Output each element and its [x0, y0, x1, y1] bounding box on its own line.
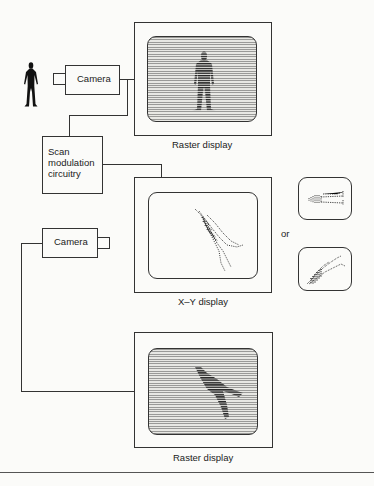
connector-to-scan	[69, 115, 128, 116]
connector-to-bottom-raster	[21, 391, 135, 392]
xy-display-label: X–Y display	[178, 296, 228, 307]
or-separator: or	[281, 228, 289, 239]
bottom-raster-label: Raster display	[173, 452, 233, 463]
connector-scan-to-xy	[102, 164, 162, 165]
connector-camera-down	[127, 79, 128, 116]
alt-screen-horizontal	[298, 177, 352, 220]
connector-camera2-down	[21, 243, 22, 391]
scan-label-line1: Scan	[48, 146, 70, 157]
scan-label-line3: circuitry	[48, 168, 81, 179]
bottom-rule	[0, 472, 374, 473]
connector-camera2-left	[21, 243, 42, 244]
tilted-figure-icon	[193, 207, 249, 273]
horizontal-figure-icon	[307, 190, 347, 210]
human-silhouette-icon	[22, 62, 40, 108]
camera-bottom-label: Camera	[54, 236, 88, 247]
tilted-raster-figure-icon	[193, 365, 249, 421]
alt-screen-diagonal	[298, 247, 352, 291]
scan-label-line2: modulation	[48, 157, 94, 168]
camera-bottom-lens	[97, 237, 110, 249]
xy-screen	[148, 192, 258, 279]
diagonal-figure-icon	[305, 254, 347, 288]
bottom-raster-screen	[148, 348, 258, 435]
connector-xy-top	[161, 164, 162, 178]
standing-figure-icon	[188, 51, 220, 115]
top-raster-label: Raster display	[172, 139, 232, 150]
camera-top-label: Camera	[77, 73, 111, 84]
connector-scan-top	[69, 115, 70, 136]
top-raster-screen	[147, 36, 257, 122]
